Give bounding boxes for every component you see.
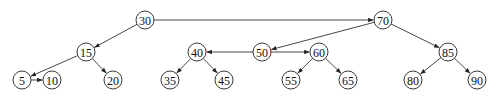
edge-40-to-35 (177, 58, 191, 73)
node-label: 5 (19, 74, 25, 88)
node-label: 20 (107, 74, 119, 88)
tree-node-90: 90 (468, 71, 486, 89)
tree-node-85: 85 (439, 43, 457, 61)
tree-node-45: 45 (215, 71, 233, 89)
node-label: 50 (256, 46, 268, 60)
tree-node-15: 15 (77, 43, 95, 61)
node-label: 35 (164, 74, 176, 88)
edges-layer (31, 20, 470, 80)
node-label: 30 (139, 14, 151, 28)
node-label: 40 (191, 46, 203, 60)
edge-85-to-80 (420, 58, 441, 74)
edge-60-to-65 (325, 58, 341, 73)
node-label: 60 (313, 46, 325, 60)
node-label: 65 (342, 74, 354, 88)
tree-node-10: 10 (43, 71, 61, 89)
tree-node-40: 40 (188, 43, 206, 61)
edge-15-to-20 (92, 58, 106, 73)
tree-node-20: 20 (104, 71, 122, 89)
node-label: 80 (407, 74, 419, 88)
tree-node-30: 30 (136, 11, 154, 29)
tree-node-5: 5 (13, 71, 31, 89)
node-label: 45 (218, 74, 230, 88)
tree-node-55: 55 (282, 71, 300, 89)
edge-60-to-55 (298, 58, 313, 73)
edge-40-to-45 (203, 58, 217, 73)
edge-70-to-85 (391, 24, 439, 48)
tree-node-50: 50 (253, 43, 271, 61)
node-label: 85 (442, 46, 454, 60)
node-label: 55 (285, 74, 297, 88)
tree-node-65: 65 (339, 71, 357, 89)
tree-node-70: 70 (374, 11, 392, 29)
tree-diagram: 3070154050608551020354555658090 (0, 0, 498, 98)
edge-30-to-15 (94, 24, 137, 47)
node-label: 10 (46, 74, 58, 88)
tree-node-80: 80 (404, 71, 422, 89)
node-label: 70 (377, 14, 389, 28)
nodes-layer: 3070154050608551020354555658090 (13, 11, 486, 89)
edge-85-to-90 (454, 58, 470, 73)
node-label: 15 (80, 46, 92, 60)
tree-node-60: 60 (310, 43, 328, 61)
node-label: 90 (471, 74, 483, 88)
tree-node-35: 35 (161, 71, 179, 89)
